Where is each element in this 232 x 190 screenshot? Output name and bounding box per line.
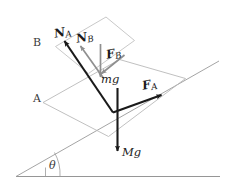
label-block-a-text: A — [33, 92, 41, 105]
label-weight-large: Mg — [122, 147, 141, 159]
label-force-a-subscript: A — [150, 81, 158, 92]
free-body-diagram: B A NA NB FB FA mg Mg θ — [0, 0, 232, 190]
label-block-b-text: B — [33, 36, 41, 49]
label-normal-a: NA — [53, 25, 72, 42]
label-normal-b: NB — [75, 30, 95, 47]
label-weight-large-text: Mg — [122, 145, 141, 159]
label-block-b: B — [33, 37, 41, 48]
label-block-a: A — [33, 93, 41, 104]
label-force-a: FA — [141, 77, 158, 93]
vector-force-a — [113, 95, 162, 113]
label-force-b: FB — [105, 46, 122, 62]
vector-normal-b — [81, 46, 104, 78]
label-angle-text: θ — [49, 159, 56, 172]
label-angle-theta: θ — [49, 160, 56, 171]
label-weight-small-text: mg — [101, 72, 119, 86]
label-weight-small: mg — [101, 74, 119, 86]
